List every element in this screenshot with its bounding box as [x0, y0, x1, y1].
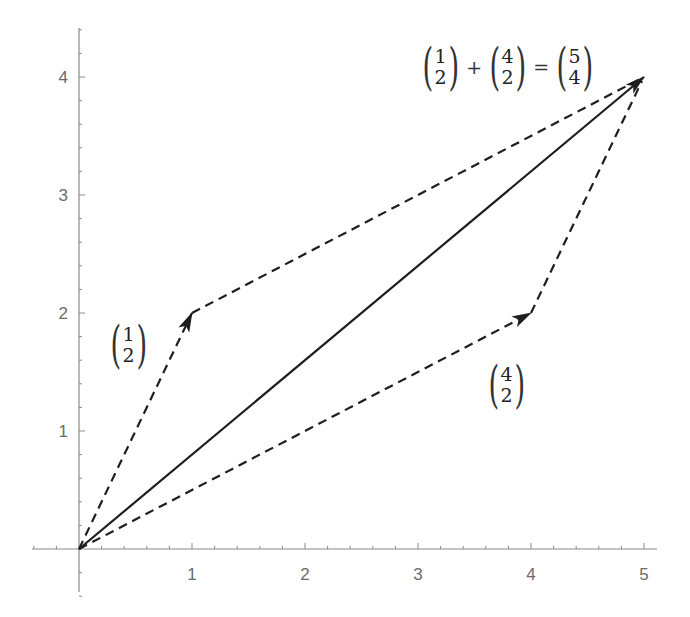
label-vector-u: ( 1 2 ) [106, 320, 151, 370]
column-vector-b: ( 4 2 ) [485, 42, 530, 92]
x-tick-label-2: 2 [300, 565, 309, 584]
column-vector-c: ( 5 4 ) [552, 42, 597, 92]
left-paren: ( [110, 320, 121, 370]
eq-a-y: 2 [435, 67, 447, 88]
label-sum-equation: ( 1 2 ) + ( 4 2 ) = ( 5 4 ) [418, 42, 597, 92]
left-paren: ( [422, 42, 433, 92]
x-tick-label-5: 5 [639, 565, 648, 584]
eq-c-y: 4 [569, 67, 581, 88]
label-vector-v: ( 4 2 ) [484, 360, 529, 410]
vector-sum-solid [79, 77, 644, 549]
left-paren: ( [489, 42, 500, 92]
vector-v-y: 2 [501, 385, 513, 406]
column-vector-a: ( 1 2 ) [418, 42, 463, 92]
plus-sign: + [466, 56, 482, 78]
right-paren: ) [514, 360, 525, 410]
right-paren: ) [136, 320, 147, 370]
x-tick-labels: 1 2 3 4 5 [187, 565, 648, 584]
equals-sign: = [533, 56, 549, 78]
left-paren: ( [556, 42, 567, 92]
vector-u-x: 1 [123, 324, 135, 345]
x-ticks [34, 543, 644, 549]
x-tick-label-3: 3 [413, 565, 422, 584]
column-vector-v: ( 4 2 ) [484, 360, 529, 410]
right-paren: ) [515, 42, 526, 92]
y-tick-label-1: 1 [59, 422, 68, 441]
y-tick-label-2: 2 [59, 304, 68, 323]
vectors [79, 77, 644, 549]
left-paren: ( [488, 360, 499, 410]
column-vector-u: ( 1 2 ) [106, 320, 151, 370]
y-tick-label-4: 4 [59, 68, 68, 87]
right-paren: ) [582, 42, 593, 92]
y-ticks [79, 30, 85, 596]
eq-a-x: 1 [435, 46, 447, 67]
x-tick-label-1: 1 [187, 565, 196, 584]
right-paren: ) [448, 42, 459, 92]
eq-b-y: 2 [502, 67, 514, 88]
vector-v-translated-dashed [192, 79, 640, 313]
eq-b-x: 4 [502, 46, 514, 67]
y-tick-label-3: 3 [59, 186, 68, 205]
vector-v-x: 4 [501, 364, 513, 385]
vector-u-y: 2 [123, 345, 135, 366]
eq-c-x: 5 [569, 46, 581, 67]
y-tick-labels: 1 2 3 4 [59, 68, 68, 441]
vector-u-translated-dashed [531, 81, 642, 313]
x-tick-label-4: 4 [526, 565, 535, 584]
